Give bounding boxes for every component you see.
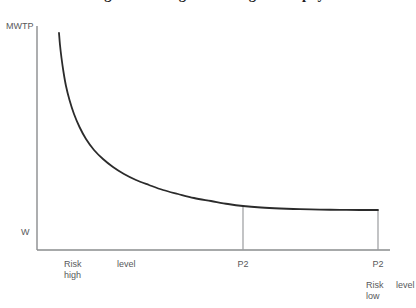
x-tick-risk-high-line1: Risk bbox=[64, 259, 82, 270]
x-tick-risk-low-line1: Risk bbox=[366, 280, 384, 291]
x-tick-risk-low: Risk low bbox=[366, 280, 384, 301]
x-tick-p2-mid: P2 bbox=[228, 259, 258, 270]
x-tick-risk-high: Risk high bbox=[64, 259, 82, 280]
x-tick-level-right: level bbox=[396, 280, 415, 291]
chart-plot-area bbox=[0, 0, 416, 308]
y-axis-label-mwtp: MWTP bbox=[6, 21, 34, 32]
mwtp-curve bbox=[59, 33, 378, 210]
y-axis-label-w: W bbox=[21, 227, 30, 238]
x-tick-risk-low-line2: low bbox=[366, 291, 384, 302]
x-tick-p2-low: P2 bbox=[363, 259, 393, 270]
x-tick-level-left: level bbox=[117, 259, 136, 270]
x-tick-risk-high-line2: high bbox=[64, 270, 82, 281]
chart-figure: Figure 1. Marginal willingness to pay MW… bbox=[0, 0, 416, 308]
